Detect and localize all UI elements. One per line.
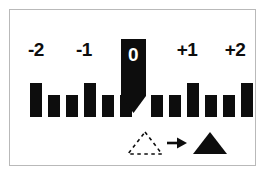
bar-3 — [84, 83, 96, 117]
axis-label-1: -1 — [68, 40, 100, 59]
bar-8 — [187, 83, 199, 117]
axis-label-3: +1 — [171, 40, 203, 59]
axis-label-0: -2 — [20, 40, 52, 59]
figure-root: -2-10+1+2 — [0, 0, 267, 176]
solid-triangle-icon — [190, 129, 230, 157]
bar-0 — [30, 83, 42, 117]
bar-2 — [66, 95, 78, 117]
bar-1 — [48, 95, 60, 117]
axis-label-2: 0 — [117, 45, 149, 64]
bar-11 — [241, 83, 253, 117]
axis-label-4: +2 — [219, 40, 251, 59]
bar-9 — [205, 95, 217, 117]
arrow-right-icon — [166, 136, 188, 150]
bar-chart-plot: -2-10+1+2 — [0, 0, 267, 176]
bar-6 — [151, 95, 163, 117]
bar-10 — [223, 95, 235, 117]
dashed-triangle-icon — [125, 129, 165, 157]
bar-4 — [102, 95, 114, 117]
bar-7 — [169, 95, 181, 117]
